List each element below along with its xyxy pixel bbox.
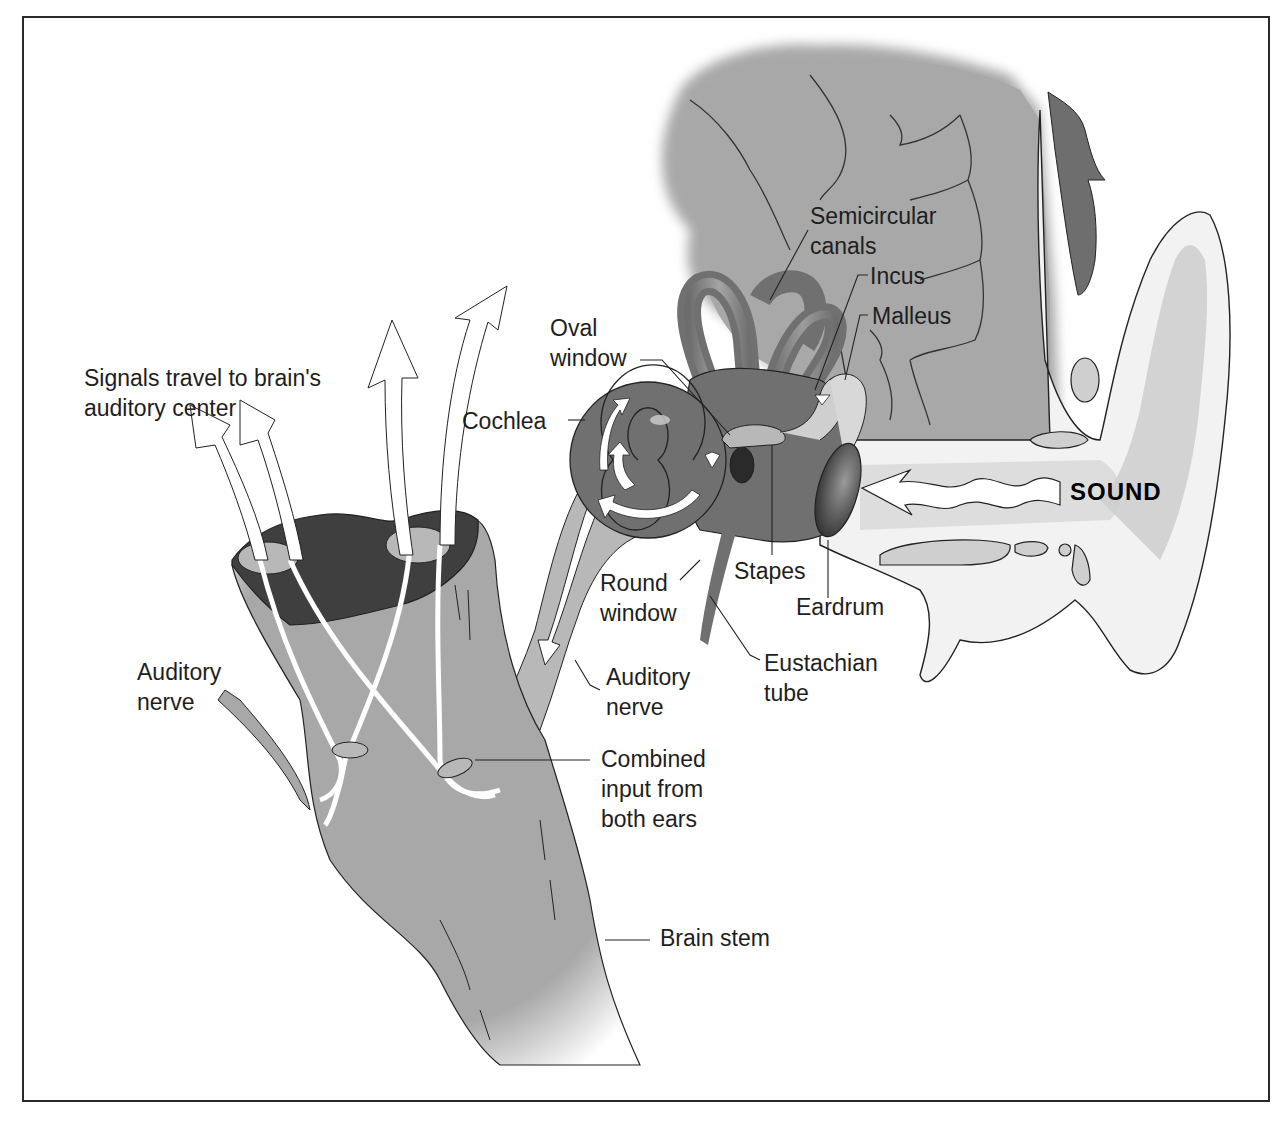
label-line: Eardrum: [796, 592, 884, 622]
auditory-nerve-left: [218, 690, 310, 810]
label-eustachian-tube: Eustachian tube: [764, 648, 878, 708]
label-line: Auditory: [137, 657, 221, 687]
label-line: tube: [764, 678, 878, 708]
label-line: Brain stem: [660, 923, 770, 953]
label-line: Incus: [870, 261, 925, 291]
label-line: Malleus: [872, 301, 951, 331]
label-line: SOUND: [1070, 477, 1162, 507]
label-line: Oval: [550, 313, 627, 343]
label-combined-input: Combined input from both ears: [601, 744, 706, 834]
hair: [1048, 92, 1105, 295]
label-line: Semicircular: [810, 201, 937, 231]
label-line: Round: [600, 568, 677, 598]
label-line: Eustachian: [764, 648, 878, 678]
label-line: nerve: [606, 692, 690, 722]
label-brain-stem: Brain stem: [660, 923, 770, 953]
label-auditory-nerve-left: Auditory nerve: [137, 657, 221, 717]
label-line: window: [550, 343, 627, 373]
round-window: [730, 447, 754, 483]
label-cochlea: Cochlea: [462, 406, 546, 436]
label-line: Combined: [601, 744, 706, 774]
ear-anatomy-illustration: [0, 0, 1280, 1130]
label-line: both ears: [601, 804, 706, 834]
label-round-window: Round window: [600, 568, 677, 628]
label-line: input from: [601, 774, 706, 804]
label-line: Signals travel to brain's: [84, 363, 321, 393]
label-line: Stapes: [734, 556, 806, 586]
label-line: Auditory: [606, 662, 690, 692]
label-semicircular-canals: Semicircular canals: [810, 201, 937, 261]
label-line: window: [600, 598, 677, 628]
eustachian-tube: [700, 520, 738, 645]
label-oval-window: Oval window: [550, 313, 627, 373]
label-eardrum: Eardrum: [796, 592, 884, 622]
label-line: nerve: [137, 687, 221, 717]
label-line: canals: [810, 231, 937, 261]
label-sound: SOUND: [1070, 477, 1162, 507]
label-line: auditory center: [84, 393, 321, 423]
label-malleus: Malleus: [872, 301, 951, 331]
label-line: Cochlea: [462, 406, 546, 436]
label-signals-travel: Signals travel to brain's auditory cente…: [84, 363, 321, 423]
label-stapes: Stapes: [734, 556, 806, 586]
label-incus: Incus: [870, 261, 925, 291]
label-auditory-nerve-right: Auditory nerve: [606, 662, 690, 722]
